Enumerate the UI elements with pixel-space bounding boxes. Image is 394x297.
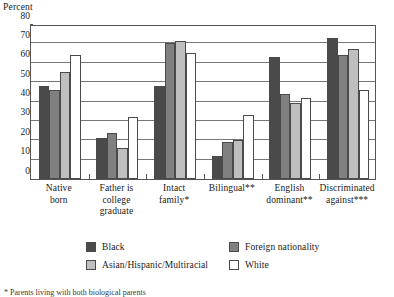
bar [301,98,312,179]
y-tick-label: 30 [4,108,30,118]
bar-group [146,26,204,179]
legend-item[interactable]: Black [86,242,125,252]
legend-label: White [245,260,269,270]
legend-item[interactable]: White [229,260,269,270]
y-tick-label: 40 [4,89,30,99]
bar [96,138,107,179]
bar [60,72,71,179]
bar-group [89,26,147,179]
x-axis-category-label-line: graduate [80,206,154,218]
bars-layer [31,26,375,179]
x-axis-category-label-line: against*** [310,195,384,207]
x-tick-mark [204,174,205,179]
bar [359,90,370,179]
chart-legend: BlackForeign nationalityAsian/Hispanic/M… [86,242,386,278]
y-tick-label: 20 [4,127,30,137]
bar [154,86,165,179]
bar [280,94,291,179]
bar-group [204,26,262,179]
legend-swatch [86,260,96,270]
bar [327,38,338,179]
bar-group [319,26,377,179]
y-axis-ticks: 01020304050607080 [0,25,30,180]
plot-area [30,25,376,180]
bar [175,41,186,179]
legend-item[interactable]: Foreign nationality [229,242,319,252]
bar [269,57,280,179]
bar [212,156,223,179]
y-tick-label: 70 [4,30,30,40]
x-tick-mark [262,174,263,179]
x-axis-category-label-line: family* [137,195,211,207]
y-tick-label: 50 [4,69,30,79]
bar [49,90,60,179]
bar [165,43,176,179]
x-tick-mark [319,174,320,179]
x-axis-category-label-line: Discriminated [310,183,384,195]
y-tick-label: 10 [4,147,30,157]
x-tick-mark [146,174,147,179]
x-axis-labels: NativebornFather iscollegegraduateIntact… [30,183,376,229]
bar-group [31,26,89,179]
bar [348,49,359,179]
legend-label: Foreign nationality [245,242,319,252]
y-tick-label: 80 [4,11,30,21]
bar [222,142,233,179]
legend-swatch [229,260,239,270]
legend-label: Black [102,242,125,252]
bar-group [262,26,320,179]
legend-item[interactable]: Asian/Hispanic/Multiracial [86,260,208,270]
legend-swatch [86,242,96,252]
bar [186,53,197,179]
bar [117,148,128,179]
x-tick-mark [89,174,90,179]
footnote: * Parents living with both biological pa… [4,288,146,297]
legend-swatch [229,242,239,252]
bar [70,55,81,179]
bar [290,103,301,179]
bar [243,115,254,179]
bar [107,133,118,180]
bar [128,117,139,179]
bar [39,86,50,179]
legend-label: Asian/Hispanic/Multiracial [102,260,208,270]
y-tick-label: 60 [4,50,30,60]
y-tick-label: 0 [4,166,30,176]
bar [233,140,244,179]
bar [338,55,349,179]
bar-chart-figure: Percent 01020304050607080 NativebornFath… [0,0,394,297]
x-axis-category-label: Discriminatedagainst*** [310,183,384,206]
